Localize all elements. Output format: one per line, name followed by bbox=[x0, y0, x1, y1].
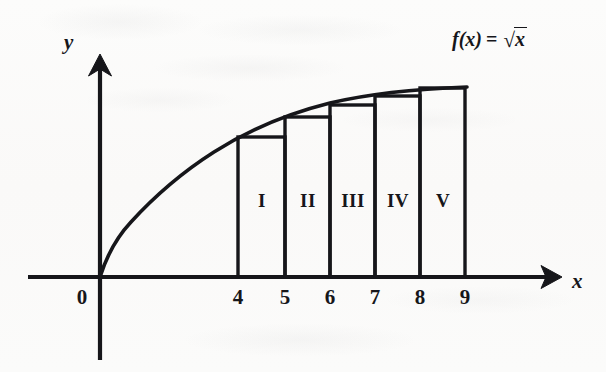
function-label: f(x) = √x bbox=[452, 27, 527, 50]
square-root-icon: √x bbox=[502, 27, 527, 50]
x-tick-label-8: 8 bbox=[415, 287, 426, 308]
x-tick-label-4: 4 bbox=[233, 287, 244, 308]
radicand: x bbox=[514, 27, 527, 49]
surd-glyph: √ bbox=[503, 30, 515, 51]
x-tick-label-5: 5 bbox=[280, 287, 291, 308]
equals-sign: = bbox=[482, 29, 502, 49]
region-label-V: V bbox=[436, 191, 450, 210]
region-label-I: I bbox=[258, 191, 266, 210]
rectangle-V bbox=[420, 88, 465, 277]
origin-label: 0 bbox=[77, 287, 88, 308]
y-axis-label: y bbox=[64, 32, 73, 53]
x-axis-label: x bbox=[572, 271, 583, 292]
region-label-III: III bbox=[341, 191, 365, 210]
region-label-IV: IV bbox=[387, 191, 409, 210]
function-name: f(x) bbox=[452, 29, 482, 49]
figure-root: y x 0 4 5 6 7 8 9 I II III IV V f(x) = √… bbox=[0, 0, 606, 372]
region-label-II: II bbox=[300, 191, 316, 210]
x-tick-label-7: 7 bbox=[370, 287, 381, 308]
axes-group bbox=[28, 54, 562, 360]
plot-canvas bbox=[0, 0, 606, 372]
x-tick-label-6: 6 bbox=[325, 287, 336, 308]
riemann-rectangles-group bbox=[238, 88, 465, 277]
rectangle-IV bbox=[375, 96, 420, 277]
x-tick-label-9: 9 bbox=[460, 287, 471, 308]
